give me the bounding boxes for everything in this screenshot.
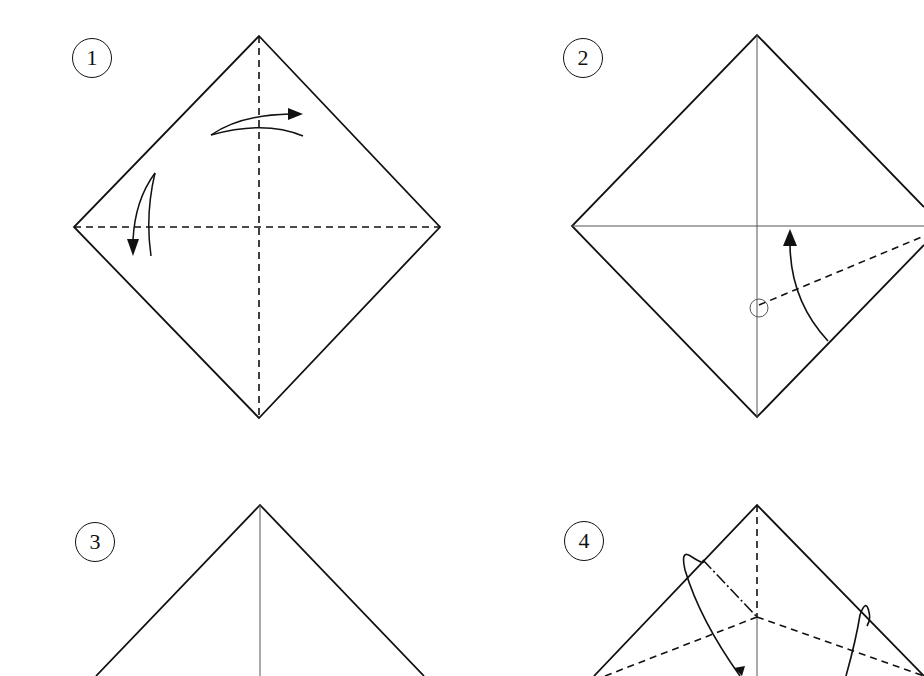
curved-arrow-down-icon — [127, 173, 155, 256]
step-4-diagram — [594, 505, 924, 676]
step-number-2: 2 — [563, 38, 603, 78]
step-number-1: 1 — [72, 38, 112, 78]
step-3-diagram — [96, 505, 424, 676]
curved-arrow-right-icon — [211, 108, 303, 136]
step-number-4: 4 — [564, 521, 604, 561]
reference-point-circle-icon — [750, 299, 768, 317]
hidden-edge-line — [703, 560, 757, 617]
paper-outline — [594, 505, 924, 676]
diagram-canvas — [0, 0, 924, 676]
step-2-diagram — [572, 35, 924, 417]
right-diagonal-fold — [757, 617, 924, 676]
step-1-diagram — [74, 36, 440, 418]
step-number-3: 3 — [75, 522, 115, 562]
